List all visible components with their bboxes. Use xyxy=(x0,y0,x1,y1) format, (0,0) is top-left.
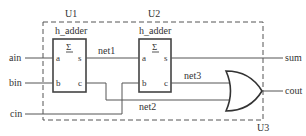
u2-type-label: h_adder xyxy=(139,25,172,36)
u2-pin-b: b xyxy=(142,78,147,88)
u2-pin-s: s xyxy=(164,53,168,63)
u1-type-label: h_adder xyxy=(55,25,88,36)
net3-label: net3 xyxy=(184,70,201,81)
net2-label: net2 xyxy=(139,101,156,112)
output-port-cout: cout xyxy=(285,85,302,96)
u1-instance-label: U1 xyxy=(65,8,77,19)
u1-sigma-symbol: Σ xyxy=(66,42,71,52)
u1-pin-b: b xyxy=(56,78,61,88)
input-port-cin: cin xyxy=(10,108,22,119)
u2-sigma-symbol: Σ xyxy=(152,42,157,52)
u2-instance-label: U2 xyxy=(148,8,160,19)
or-gate xyxy=(226,71,262,111)
u3-instance-label: U3 xyxy=(257,122,269,133)
u1-pin-s: s xyxy=(78,53,82,63)
output-port-sum: sum xyxy=(285,52,302,63)
u2-pin-a: a xyxy=(142,53,146,63)
net1-label: net1 xyxy=(98,45,115,56)
u2-pin-c: c xyxy=(164,78,168,88)
u1-pin-c: c xyxy=(78,78,82,88)
circuit-diagram: U1 U2 U3 h_adder h_adder Σ a b s c Σ a b… xyxy=(0,0,306,136)
input-port-bin: bin xyxy=(9,77,22,88)
u1-pin-a: a xyxy=(56,53,60,63)
input-port-ain: ain xyxy=(9,52,21,63)
